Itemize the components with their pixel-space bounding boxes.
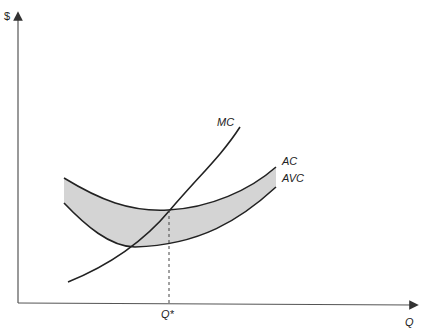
x-axis [18, 303, 414, 305]
x-axis-label: Q [405, 316, 414, 328]
cost-curves-diagram: $ Q Q* MC AC AVC [0, 0, 427, 333]
q-star-label: Q* [161, 308, 175, 320]
avc-label: AVC [281, 172, 304, 184]
y-axis-label: $ [4, 10, 10, 22]
afc-shaded-region [64, 167, 276, 247]
ac-label: AC [281, 155, 297, 167]
mc-label: MC [217, 116, 234, 128]
